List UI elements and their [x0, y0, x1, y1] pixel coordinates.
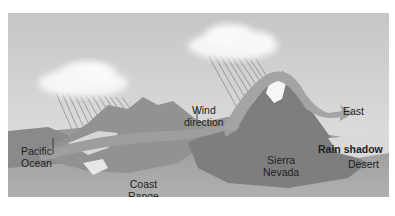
wind-label-line2: direction [184, 116, 224, 128]
sierra-label-line2: Nevada [263, 166, 299, 178]
coast-label-line2: Range [128, 190, 159, 197]
sierra-label-line1: Sierra [263, 154, 299, 166]
pacific-label-line1: Pacific [21, 145, 52, 157]
desert-label: Desert [348, 158, 379, 170]
wind-label-line1: Wind [184, 104, 224, 116]
wind-direction-label: Wind direction [184, 104, 224, 128]
coast-label-line1: Coast [128, 178, 159, 190]
pacific-ocean-label: Pacific Ocean [21, 145, 52, 169]
rain-shadow-diagram: Pacific Ocean Wind direction East Coast … [8, 13, 389, 197]
rain-shadow-label: Rain shadow [318, 143, 383, 155]
coast-range-label: Coast Range [128, 178, 159, 197]
pacific-label-line2: Ocean [21, 157, 52, 169]
east-label: East [343, 105, 364, 117]
sierra-nevada-label: Sierra Nevada [263, 154, 299, 178]
